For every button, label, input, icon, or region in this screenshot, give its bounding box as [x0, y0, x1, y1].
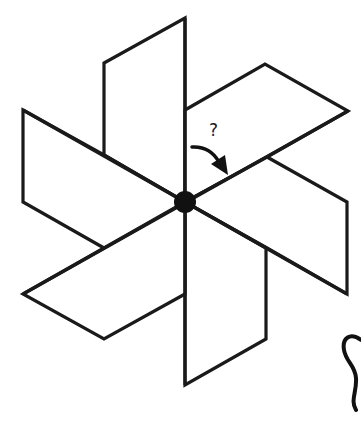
question-mark-label: ?	[209, 120, 218, 140]
pinwheel-diagram: ?	[0, 0, 361, 421]
partial-figure-edge	[344, 336, 361, 410]
center-pivot-dot	[174, 191, 196, 213]
